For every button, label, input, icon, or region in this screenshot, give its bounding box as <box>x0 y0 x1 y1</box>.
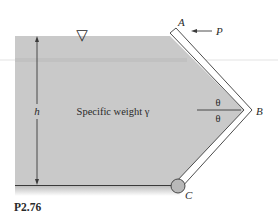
fluid-band <box>15 58 187 62</box>
point-label-b: B <box>256 105 263 117</box>
fluid-label: Specific weight γ <box>77 106 150 117</box>
arrowhead-left-icon <box>191 29 197 33</box>
force-label: P <box>215 25 223 37</box>
free-surface-icon: ▽ <box>76 27 88 43</box>
depth-label: h <box>34 105 40 117</box>
theta-lower-label: θ <box>215 113 220 124</box>
diagram-figure: ▽ h Specific weight γ θ θ P A B C P2.76 <box>0 0 278 222</box>
ground-shading <box>15 186 180 196</box>
theta-upper-label: θ <box>215 97 220 108</box>
hinge-c-icon <box>171 179 185 193</box>
point-label-a: A <box>177 16 185 28</box>
point-label-c: C <box>185 189 193 201</box>
figure-caption: P2.76 <box>14 201 41 213</box>
